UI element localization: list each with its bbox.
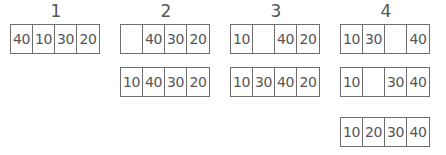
array-cell: 10 — [231, 68, 253, 96]
array-cell: 10 — [231, 25, 253, 53]
array-cell: 40 — [407, 118, 429, 146]
array-cell: 40 — [275, 68, 297, 96]
array-cell: 30 — [55, 25, 77, 53]
step-label: 4 — [340, 1, 432, 21]
array-cell: 20 — [297, 68, 319, 96]
array-cell: 10 — [341, 25, 363, 53]
array-box: 10 30 40 — [340, 67, 430, 97]
array-cell — [253, 25, 275, 53]
array-cell: 40 — [143, 68, 165, 96]
array-cell: 30 — [165, 68, 187, 96]
array-cell: 30 — [385, 118, 407, 146]
array-box: 10 40 30 20 — [120, 67, 210, 97]
array-cell: 30 — [363, 25, 385, 53]
array-cell: 30 — [253, 68, 275, 96]
array-cell: 10 — [341, 118, 363, 146]
array-box: 10 30 40 20 — [230, 67, 320, 97]
array-cell: 20 — [297, 25, 319, 53]
step-label: 2 — [120, 1, 212, 21]
array-cell: 30 — [165, 25, 187, 53]
array-box: 40 10 30 20 — [10, 24, 100, 54]
array-cell: 10 — [33, 25, 55, 53]
step-label: 3 — [230, 1, 322, 21]
array-cell: 40 — [275, 25, 297, 53]
array-cell: 30 — [385, 68, 407, 96]
array-cell: 20 — [187, 25, 209, 53]
array-cell: 40 — [407, 68, 429, 96]
array-cell — [363, 68, 385, 96]
array-cell: 20 — [77, 25, 99, 53]
array-box: 10 30 40 — [340, 24, 430, 54]
array-cell — [121, 25, 143, 53]
array-cell: 40 — [143, 25, 165, 53]
array-box: 10 20 30 40 — [340, 117, 430, 147]
array-cell — [385, 25, 407, 53]
array-cell: 40 — [11, 25, 33, 53]
array-cell: 20 — [187, 68, 209, 96]
array-cell: 20 — [363, 118, 385, 146]
array-box: 40 30 20 — [120, 24, 210, 54]
array-cell: 40 — [407, 25, 429, 53]
array-box: 10 40 20 — [230, 24, 320, 54]
step-label: 1 — [10, 1, 102, 21]
array-cell: 10 — [341, 68, 363, 96]
array-cell: 10 — [121, 68, 143, 96]
